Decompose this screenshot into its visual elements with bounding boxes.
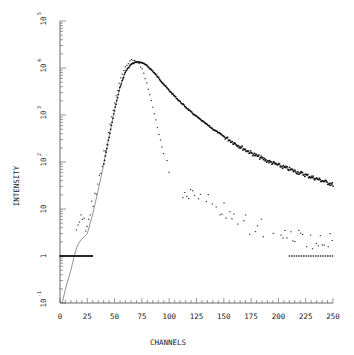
decay-intensity-chart: 10-1110102103104105025507510012515017520… (0, 0, 354, 355)
x-tick-label: 250 (326, 312, 340, 321)
baseline-ones-series (59, 255, 333, 257)
svg-text:5: 5 (36, 12, 42, 15)
x-tick-label: 125 (190, 312, 204, 321)
y-tick-label: 1 (39, 254, 48, 259)
x-tick-label: 0 (58, 312, 63, 321)
svg-text:10: 10 (39, 204, 48, 214)
x-axis-label: CHANNELS (150, 338, 187, 347)
y-tick-label: 102 (36, 153, 48, 167)
y-tick-label: 105 (36, 12, 48, 26)
svg-text:2: 2 (36, 153, 42, 156)
svg-text:4: 4 (36, 59, 42, 62)
svg-text:1: 1 (39, 254, 48, 259)
x-tick-label: 225 (299, 312, 313, 321)
y-tick-label: 10-1 (36, 291, 48, 308)
light-dotted-series (76, 59, 333, 249)
y-tick-label: 10 (39, 204, 48, 214)
x-tick-label: 50 (110, 312, 120, 321)
x-tick-label: 100 (162, 312, 176, 321)
heavy-dotted-series (103, 61, 334, 187)
y-tick-label: 104 (36, 59, 48, 73)
x-tick-label: 75 (137, 312, 146, 321)
svg-text:10: 10 (39, 298, 48, 308)
thin-line-series (62, 62, 333, 303)
svg-text:10: 10 (39, 63, 48, 73)
x-tick-label: 200 (272, 312, 286, 321)
svg-text:10: 10 (39, 16, 48, 26)
chart-canvas: 10-1110102103104105025507510012515017520… (0, 0, 354, 355)
y-tick-label: 103 (36, 106, 48, 120)
x-tick-label: 25 (83, 312, 92, 321)
axes: 10-1110102103104105025507510012515017520… (36, 12, 340, 321)
svg-text:-1: -1 (36, 291, 42, 297)
svg-text:10: 10 (39, 110, 48, 120)
svg-text:3: 3 (36, 106, 42, 109)
svg-text:10: 10 (39, 157, 48, 167)
x-tick-label: 175 (244, 312, 258, 321)
plot-area (59, 59, 334, 303)
x-tick-label: 150 (217, 312, 231, 321)
y-axis-label: INTENSITY (12, 165, 21, 206)
